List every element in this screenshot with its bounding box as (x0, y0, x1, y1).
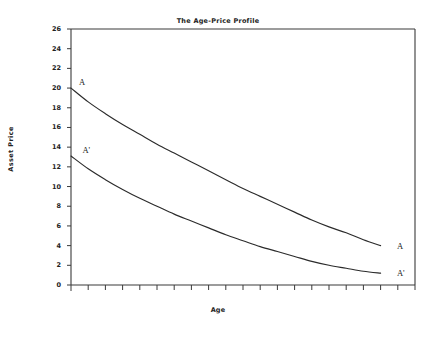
y-tick-label: 8 (39, 202, 61, 210)
axis-frame (71, 29, 415, 285)
y-tick-label: 0 (39, 281, 61, 289)
y-tick-label: 4 (39, 242, 61, 250)
curve-label-start: A' (82, 145, 90, 155)
x-axis-title: Age (0, 306, 436, 314)
y-tick-label: 10 (39, 183, 61, 191)
curve-label-end: A' (397, 268, 405, 278)
y-axis-title: Asset Price (7, 119, 15, 179)
curve-a-prime (71, 156, 381, 273)
y-tick-label: 12 (39, 163, 61, 171)
x-axis-ticks (71, 285, 415, 291)
chart-title: The Age-Price Profile (0, 17, 436, 25)
y-tick-label: 16 (39, 123, 61, 131)
curve-label-start: A (79, 77, 85, 87)
y-tick-label: 6 (39, 222, 61, 230)
y-tick-label: 22 (39, 64, 61, 72)
curve-label-end: A (397, 241, 403, 251)
y-tick-label: 14 (39, 143, 61, 151)
y-tick-label: 2 (39, 261, 61, 269)
y-tick-label: 24 (39, 45, 61, 53)
plot-canvas (0, 0, 436, 343)
y-tick-label: 20 (39, 84, 61, 92)
curve-a (71, 88, 381, 246)
y-tick-label: 26 (39, 25, 61, 33)
y-tick-label: 18 (39, 104, 61, 112)
chart-figure: The Age-Price Profile Asset Price Age 02… (0, 0, 436, 343)
y-axis-ticks (67, 29, 71, 285)
